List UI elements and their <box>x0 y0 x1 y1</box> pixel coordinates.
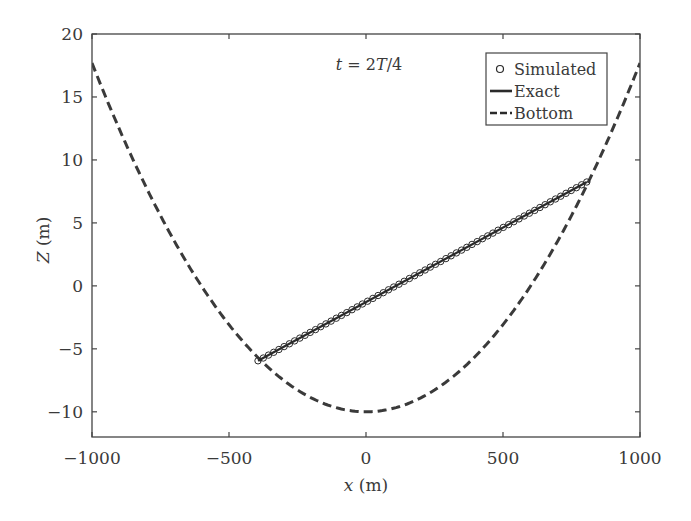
x-tick-label: 0 <box>361 448 372 468</box>
x-tick-label: −500 <box>206 448 253 468</box>
y-tick-label: 5 <box>72 213 83 233</box>
x-tick-label: −1000 <box>63 448 121 468</box>
y-tick-label: 15 <box>61 87 83 107</box>
legend: SimulatedExactBottom <box>486 53 607 125</box>
time-annotation: t = 2T/4 <box>336 55 402 74</box>
y-tick-label: 10 <box>61 150 83 170</box>
x-tick-label: 500 <box>487 448 519 468</box>
x-tick-label: 1000 <box>618 448 661 468</box>
y-tick-label: −5 <box>58 339 83 359</box>
y-tick-label: 0 <box>72 276 83 296</box>
y-axis-label: Z (m) <box>33 217 53 265</box>
x-axis-label: x (m) <box>344 475 388 495</box>
y-tick-label: −10 <box>47 402 83 422</box>
legend-label: Exact <box>514 82 560 101</box>
chart-figure: −1000−50005001000−10−505101520 t = 2T/4 … <box>0 0 691 521</box>
y-tick-label: 20 <box>61 24 83 44</box>
legend-label: Simulated <box>514 60 596 79</box>
legend-label: Bottom <box>514 104 573 123</box>
